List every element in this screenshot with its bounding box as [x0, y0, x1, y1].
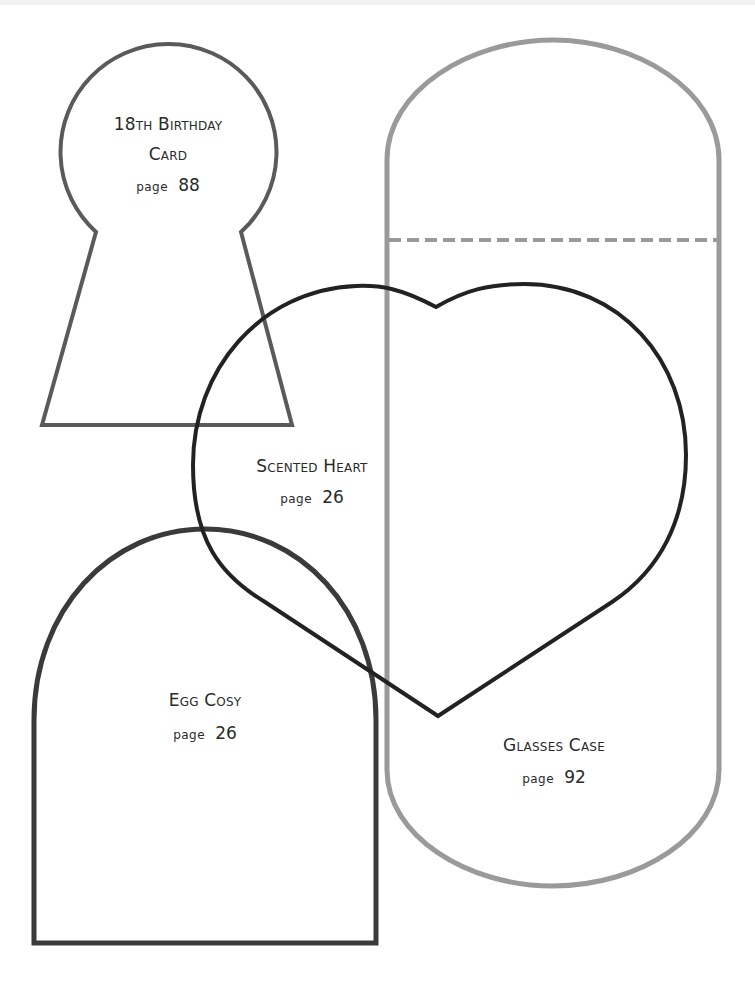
scented-heart-outline [193, 284, 686, 716]
birthday-card-title-line-2: Card [149, 144, 187, 164]
egg-cosy-page-number: 26 [215, 723, 237, 743]
scented-heart-page-prefix: page [280, 492, 312, 506]
egg-cosy-title: Egg Cosy [169, 690, 242, 710]
egg-cosy-page: page 26 [173, 723, 237, 743]
birthday-card-template: 18th Birthday Card page 88 [42, 44, 292, 425]
glasses-case-template: Glasses Case page 92 [387, 40, 719, 886]
scented-heart-title: Scented Heart [256, 456, 368, 476]
birthday-card-page-prefix: page [136, 180, 168, 194]
scented-heart-page: page 26 [280, 487, 344, 507]
glasses-case-outline [387, 40, 719, 886]
templates-sheet: Glasses Case page 92 18th Birthday Card … [0, 0, 755, 981]
egg-cosy-template: Egg Cosy page 26 [34, 529, 376, 943]
birthday-card-page-number: 88 [178, 175, 200, 195]
glasses-case-page-number: 92 [564, 767, 586, 787]
glasses-case-page: page 92 [522, 767, 586, 787]
birthday-card-outline [42, 44, 292, 425]
birthday-card-page: page 88 [136, 175, 200, 195]
scented-heart-template: Scented Heart page 26 [193, 284, 686, 716]
birthday-card-title-line-1: 18th Birthday [114, 114, 223, 134]
scented-heart-page-number: 26 [322, 487, 344, 507]
egg-cosy-page-prefix: page [173, 728, 205, 742]
glasses-case-page-prefix: page [522, 772, 554, 786]
glasses-case-title: Glasses Case [503, 735, 605, 755]
